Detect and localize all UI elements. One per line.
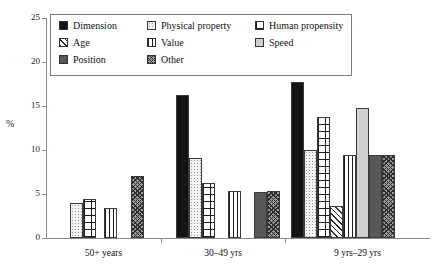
legend-row: AgeValueSpeed <box>59 37 345 54</box>
legend-item-speed[interactable]: Speed <box>255 37 293 48</box>
bar-other <box>382 155 395 238</box>
legend-swatch-dimension-icon <box>59 21 68 30</box>
x-axis-line <box>46 238 430 239</box>
bar-age <box>330 206 343 238</box>
legend-label: Age <box>73 37 90 48</box>
y-tick-label: 25 <box>0 13 40 22</box>
legend-swatch-speed-icon <box>255 38 264 47</box>
legend-label: Physical property <box>161 20 231 31</box>
bar-human-propensity <box>83 199 96 238</box>
legend-label: Other <box>161 54 184 65</box>
bar-physical-property <box>189 158 202 238</box>
legend-label: Speed <box>269 37 293 48</box>
bar-value <box>343 155 356 238</box>
bar-value <box>228 191 241 238</box>
y-tick-label: 5 <box>0 189 40 198</box>
bar-dimension <box>176 95 189 238</box>
legend-swatch-value-icon <box>147 38 156 47</box>
legend-swatch-other-icon <box>147 55 156 64</box>
y-tick-label: 10 <box>0 145 40 154</box>
y-tick-label: 20 <box>0 57 40 66</box>
x-category-label: 9 yrs–29 yrs <box>285 248 430 258</box>
legend-body: DimensionPhysical propertyHuman propensi… <box>59 20 345 71</box>
bar-position <box>369 155 382 238</box>
legend-label: Dimension <box>73 20 117 31</box>
bar-other <box>131 176 144 238</box>
legend-label: Human propensity <box>269 20 343 31</box>
legend-swatch-position-icon <box>59 55 68 64</box>
y-tick-label: 15 <box>0 101 40 110</box>
bar-physical-property <box>70 203 83 238</box>
bar-human-propensity <box>317 117 330 238</box>
legend: DimensionPhysical propertyHuman propensi… <box>50 14 352 76</box>
legend-item-human-propensity[interactable]: Human propensity <box>255 20 343 31</box>
legend-row: PositionOther <box>59 54 345 71</box>
bar-speed <box>356 108 369 238</box>
legend-row: DimensionPhysical propertyHuman propensi… <box>59 20 345 37</box>
bar-value <box>104 208 117 238</box>
legend-item-other[interactable]: Other <box>147 54 255 65</box>
legend-item-position[interactable]: Position <box>59 54 147 65</box>
bar-other <box>267 191 280 238</box>
y-tick-label: 0 <box>0 233 40 242</box>
legend-item-value[interactable]: Value <box>147 37 255 48</box>
legend-swatch-physical-icon <box>147 21 156 30</box>
legend-item-age[interactable]: Age <box>59 37 147 48</box>
x-category-label: 50+ years <box>46 248 161 258</box>
bar-dimension <box>291 82 304 238</box>
chart-figure: % 0510152025 50+ years30–49 yrs9 yrs–29 … <box>0 0 432 268</box>
x-axis-separator <box>285 238 286 243</box>
legend-item-physical-property[interactable]: Physical property <box>147 20 255 31</box>
legend-item-dimension[interactable]: Dimension <box>59 20 147 31</box>
y-axis-title: % <box>6 118 14 129</box>
bar-position <box>254 192 267 238</box>
legend-swatch-age-icon <box>59 38 68 47</box>
y-tick-mark <box>42 238 46 239</box>
bar-human-propensity <box>202 183 215 238</box>
legend-label: Value <box>161 37 184 48</box>
x-axis-separator <box>161 238 162 243</box>
legend-swatch-human-icon <box>255 21 264 30</box>
x-category-label: 30–49 yrs <box>161 248 285 258</box>
bar-physical-property <box>304 150 317 238</box>
legend-label: Position <box>73 54 106 65</box>
